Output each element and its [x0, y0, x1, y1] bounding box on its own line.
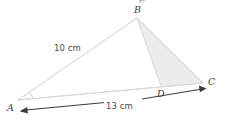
vertex-label-a: A: [7, 103, 14, 113]
length-label-ab: 10 cm: [54, 44, 81, 53]
vertex-label-d: D: [157, 89, 165, 99]
vertex-label-b: B: [134, 5, 141, 15]
length-label-ac: 13 cm: [106, 102, 133, 111]
segment-ac: [18, 83, 203, 100]
dimension-line-ac-right: [142, 89, 201, 99]
angle-arc-a: [29, 92, 33, 99]
top-clipped-label: E: [138, 0, 145, 3]
geometry-figure: E A B C D 10 cm 13 cm: [0, 0, 226, 120]
vertex-label-c: C: [208, 77, 215, 87]
dimension-arrow-left: [20, 107, 28, 114]
dimension-line-ac-left: [24, 103, 104, 111]
dimension-arrow-right: [199, 86, 207, 93]
